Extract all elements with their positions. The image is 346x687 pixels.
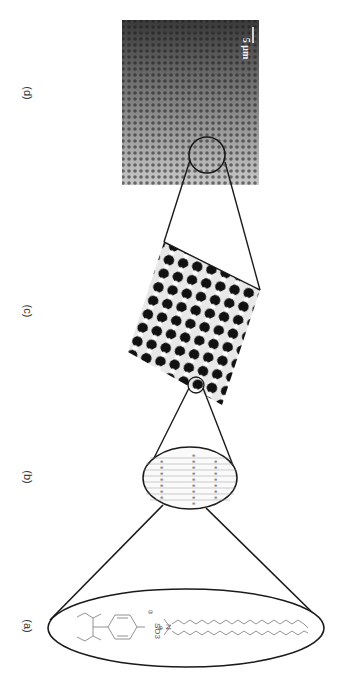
svg-text:⊕: ⊕ xyxy=(160,483,163,488)
svg-text:⊕: ⊕ xyxy=(192,459,195,464)
svg-text:⊕: ⊕ xyxy=(192,495,195,500)
scale-bar-label: 5 μm xyxy=(241,38,252,60)
svg-text:⊕: ⊕ xyxy=(214,459,217,464)
svg-text:⊕: ⊕ xyxy=(192,489,195,494)
svg-text:⊕: ⊕ xyxy=(192,465,195,470)
svg-text:⊕: ⊕ xyxy=(160,465,163,470)
svg-text:⊕: ⊕ xyxy=(192,501,195,506)
svg-text:⊕: ⊕ xyxy=(160,477,163,482)
svg-text:⊕: ⊕ xyxy=(192,471,195,476)
svg-text:⊕: ⊕ xyxy=(214,477,217,482)
panel-b-bilayer: ⊕⊕⊕⊕⊕⊕⊕ ⊕⊕⊕⊕⊕⊕⊕⊕⊕ ⊕⊕⊕⊕⊕⊕⊕ xyxy=(143,447,237,509)
ammonium-nitrogen: N xyxy=(164,624,173,630)
panel-c-hexagonal-pattern xyxy=(120,235,270,410)
svg-text:⊕: ⊕ xyxy=(214,489,217,494)
svg-text:⊕: ⊕ xyxy=(214,471,217,476)
svg-text:⊕: ⊕ xyxy=(192,477,195,482)
svg-text:⊕: ⊕ xyxy=(160,471,163,476)
svg-text:⊕: ⊕ xyxy=(160,489,163,494)
svg-text:⊕: ⊕ xyxy=(160,495,163,500)
svg-text:⊕: ⊕ xyxy=(192,483,195,488)
hierarchy-figure: ⊕⊕⊕⊕⊕⊕⊕ ⊕⊕⊕⊕⊕⊕⊕⊕⊕ ⊕⊕⊕⊕⊕⊕⊕ S xyxy=(0,0,346,687)
svg-text:⊕: ⊕ xyxy=(160,459,163,464)
anion-charge: ⊖ xyxy=(148,609,153,615)
svg-text:⊕: ⊕ xyxy=(192,453,195,458)
cation-charge: ⊕ xyxy=(158,625,163,631)
panel-a-molecule: SO3 ⊖ N ⊕ xyxy=(48,589,324,667)
svg-text:⊕: ⊕ xyxy=(214,465,217,470)
svg-text:⊕: ⊕ xyxy=(214,495,217,500)
svg-text:⊕: ⊕ xyxy=(214,483,217,488)
